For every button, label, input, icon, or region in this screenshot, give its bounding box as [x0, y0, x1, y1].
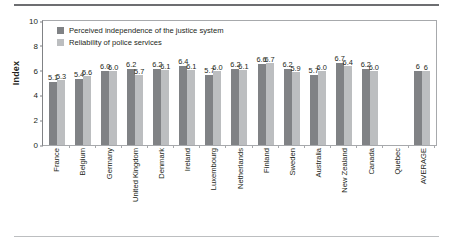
bar[interactable]: 6.0: [101, 71, 109, 145]
x-axis-category-label: Quebec: [392, 148, 401, 175]
chart-figure: Index 1086420 Perceived independence of …: [0, 0, 453, 241]
x-label-cell: Sweden: [279, 148, 305, 228]
bar[interactable]: 6.0: [318, 71, 326, 145]
bar[interactable]: 5.7: [310, 75, 318, 145]
bar[interactable]: 6.7: [336, 63, 344, 145]
bar[interactable]: 6.2: [231, 69, 239, 145]
bar[interactable]: 5.9: [292, 72, 300, 145]
y-tick-label: 4: [34, 91, 43, 100]
bar[interactable]: 6: [414, 71, 422, 145]
x-label-cell: Finland: [253, 148, 279, 228]
bar-pair: 6.26.1: [231, 22, 247, 145]
bar-group: 6.06.0: [96, 22, 122, 145]
bar-group: 6.25.7: [122, 22, 148, 145]
x-axis-category-label: Finland: [261, 148, 270, 173]
bar[interactable]: 5.6: [83, 76, 91, 145]
x-label-cell: Netherlands: [226, 148, 252, 228]
bar-value-label: 5.6: [82, 68, 92, 77]
bar-group: 6.25.9: [279, 22, 305, 145]
bar-group: 66: [409, 22, 435, 145]
bar-groups: 5.15.35.45.66.06.06.25.76.26.16.46.15.76…: [44, 22, 435, 145]
x-label-cell: Germany: [95, 148, 121, 228]
bar[interactable]: 6.6: [258, 64, 266, 145]
bar-group: 5.15.3: [44, 22, 70, 145]
bar-group: [383, 22, 409, 145]
x-axis-category-label: AVERAGE: [418, 148, 427, 184]
x-axis-category-label: Sweden: [287, 148, 296, 175]
x-axis-category-label: New Zealand: [340, 148, 349, 193]
x-label-cell: New Zealand: [331, 148, 357, 228]
x-axis-category-label: Netherlands: [235, 148, 244, 189]
bar-pair: 5.76.0: [310, 22, 326, 145]
bar-value-label: 6.1: [238, 62, 248, 71]
top-divider-rule: [14, 4, 439, 6]
bar[interactable]: 6.1: [187, 70, 195, 145]
x-axis-category-label: France: [52, 148, 61, 172]
y-tick-label: 2: [34, 116, 43, 125]
bar-value-label: 6.7: [264, 55, 274, 64]
x-label-cell: France: [43, 148, 69, 228]
bar-value-label: 6.4: [343, 58, 353, 67]
bar-group: 5.45.6: [70, 22, 96, 145]
bar-group: 6.26.1: [226, 22, 252, 145]
bar[interactable]: 6.0: [213, 71, 221, 145]
bar-pair: 5.76.0: [205, 22, 221, 145]
bar-value-label: 6.0: [108, 63, 118, 72]
plot-area: 1086420 Perceived independence of the ju…: [42, 20, 437, 146]
x-label-cell: Luxembourg: [200, 148, 226, 228]
bar[interactable]: 5.1: [49, 82, 57, 145]
bar-pair: 5.45.6: [75, 22, 91, 145]
bar[interactable]: 6.2: [362, 69, 370, 145]
bar[interactable]: 6.0: [370, 71, 378, 145]
bar[interactable]: 5.7: [135, 75, 143, 145]
x-label-cell: Belgium: [69, 148, 95, 228]
bar-pair: 6.66.7: [258, 22, 274, 145]
bar-value-label: 5.3: [56, 72, 66, 81]
bar-group: 5.76.0: [305, 22, 331, 145]
bar[interactable]: 6.2: [153, 69, 161, 145]
bar[interactable]: 5.4: [75, 79, 83, 145]
x-axis-category-label: Australia: [314, 148, 323, 178]
bar[interactable]: 5.3: [57, 80, 65, 145]
bar-value-label: 6.1: [160, 62, 170, 71]
bar[interactable]: 6.2: [284, 69, 292, 145]
bar-pair: 6.26.0: [362, 22, 378, 145]
y-tick-label: 10: [29, 17, 43, 26]
bar-value-label: 6.1: [186, 62, 196, 71]
x-label-cell: Australia: [305, 148, 331, 228]
bar[interactable]: 6.4: [179, 66, 187, 145]
bar-value-label: 6.0: [317, 63, 327, 72]
x-label-cell: Quebec: [384, 148, 410, 228]
x-axis-labels: FranceBelgiumGermanyUnited KingdomDenmar…: [43, 148, 436, 228]
y-tick-label: 6: [34, 66, 43, 75]
bar[interactable]: 6.1: [239, 70, 247, 145]
bar-value-label: 6.0: [369, 63, 379, 72]
bar-pair: 5.15.3: [49, 22, 65, 145]
x-label-cell: Ireland: [174, 148, 200, 228]
bar[interactable]: 6.0: [109, 71, 117, 145]
bar[interactable]: 5.7: [205, 75, 213, 145]
x-label-cell: Denmark: [148, 148, 174, 228]
bar[interactable]: 6.1: [161, 70, 169, 145]
bar-pair: 6.25.7: [127, 22, 143, 145]
y-tick-label: 8: [34, 41, 43, 50]
bottom-divider-rule: [14, 236, 439, 237]
bar-group: 5.76.0: [200, 22, 226, 145]
bar[interactable]: 6: [422, 71, 430, 145]
bar[interactable]: 6.2: [127, 69, 135, 145]
bar-value-label: 6: [416, 62, 420, 71]
bar-pair: 66: [414, 22, 430, 145]
x-axis-category-label: Canada: [366, 148, 375, 175]
bar-pair: 6.25.9: [284, 22, 300, 145]
bar-group: 6.26.0: [357, 22, 383, 145]
bar-group: 6.76.4: [331, 22, 357, 145]
bar-pair: 6.06.0: [101, 22, 117, 145]
bar-value-label: 6: [424, 63, 428, 72]
x-axis-category-label: Denmark: [156, 148, 165, 179]
bar-pair: 6.46.1: [179, 22, 195, 145]
x-axis-category-label: Germany: [104, 148, 113, 179]
bar-group: 6.66.7: [253, 22, 279, 145]
x-axis-category-label: Ireland: [183, 148, 192, 171]
bar[interactable]: 6.4: [344, 66, 352, 145]
bar[interactable]: 6.7: [266, 63, 274, 145]
